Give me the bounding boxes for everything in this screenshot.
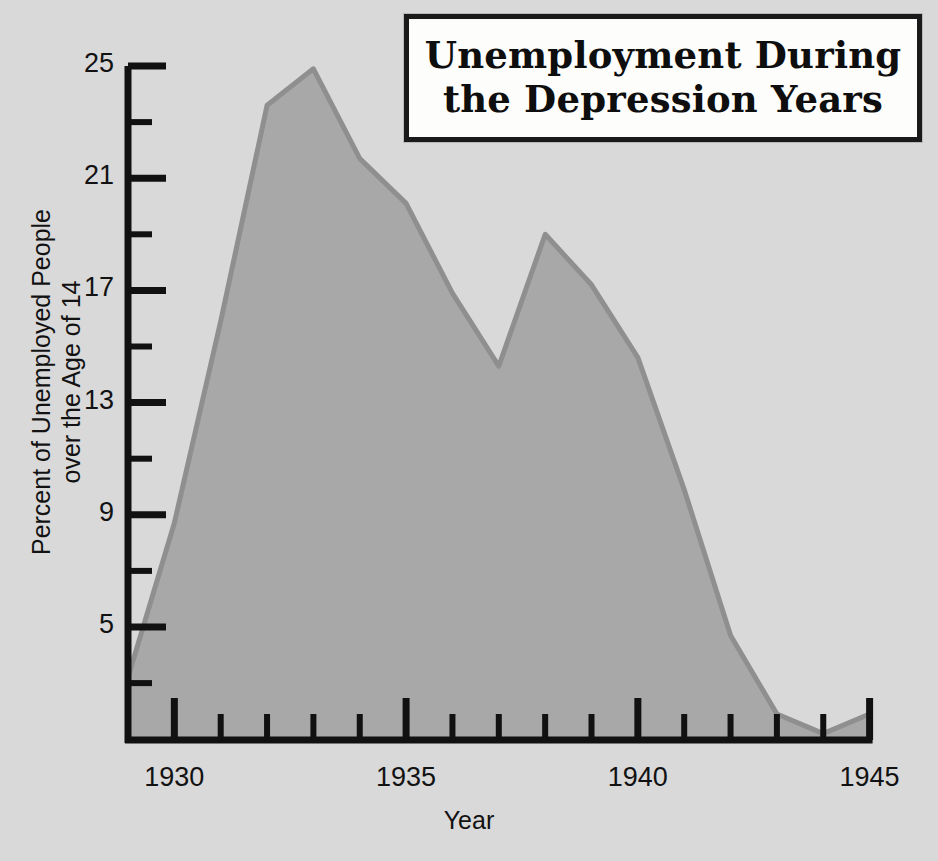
chart-title-line-2: the Depression Years [443,78,883,122]
x-axis-title: Year [0,806,938,835]
area-fill [128,69,870,740]
y-tick-label: 9 [32,497,114,528]
x-tick-label: 1930 [114,762,234,793]
y-tick-label: 5 [32,609,114,640]
x-tick-label: 1940 [578,762,698,793]
y-tick-label: 25 [32,48,114,79]
chart-title-box: Unemployment During the Depression Years [404,14,922,142]
y-tick-label: 13 [32,385,114,416]
area-series [128,69,870,740]
x-tick-label: 1945 [810,762,930,793]
y-tick-label: 17 [32,272,114,303]
y-tick-label: 21 [32,160,114,191]
unemployment-area-chart: 5913172125 1930193519401945 Percent of U… [0,0,938,861]
chart-title-line-1: Unemployment During [425,34,902,78]
x-tick-label: 1935 [346,762,466,793]
